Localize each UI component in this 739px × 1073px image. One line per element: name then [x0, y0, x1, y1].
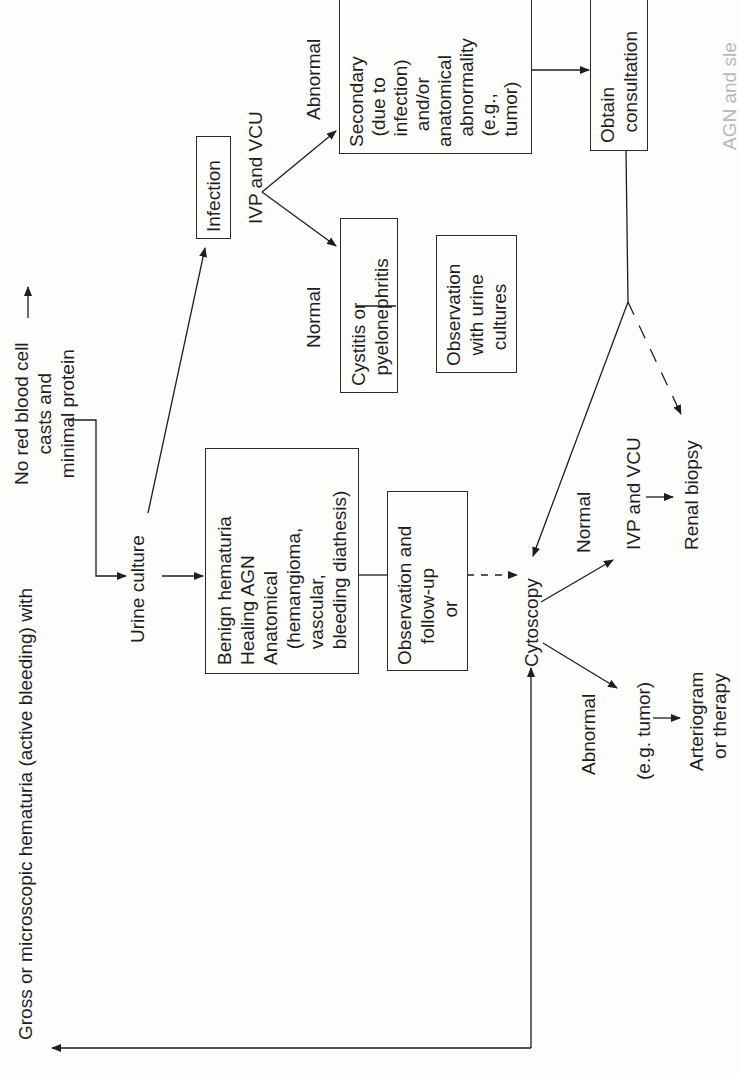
observation-urine-text: Observation with urine cultures [442, 264, 511, 366]
ivp-vcu-label-1: IVP and VCU [244, 111, 267, 224]
consultation-text: Obtain consultation [596, 31, 642, 143]
arteriogram-label: Arteriogram or therapy [685, 672, 731, 771]
start-label: Gross or microscopic hematuria (active b… [14, 588, 37, 1040]
normal-label-1: Normal [302, 287, 325, 348]
observation-followup-text: Observation and follow-up or [393, 526, 462, 665]
infection-text: Infection [202, 160, 225, 232]
no-rbc-casts-label: No red blood cell casts and minimal prot… [10, 342, 79, 485]
eg-tumor-label: (e.g. tumor) [632, 682, 655, 780]
caption-fragment: AGN and sle [718, 42, 739, 150]
urine-culture-label: Urine culture [126, 535, 149, 643]
cytoscopy-label: Cytoscopy [520, 578, 543, 667]
secondary-text: Secondary (due to infection) and/or anat… [346, 38, 522, 147]
renal-biopsy-label: Renal biopsy [680, 440, 703, 550]
abnormal-label-2: Abnormal [577, 694, 600, 775]
normal-label-2: Normal [572, 492, 595, 553]
benign-hematuria-text: Benign hematuria Healing AGN Anatomical … [213, 491, 351, 665]
ivp-vcu-label-2: IVP and VCU [622, 437, 645, 550]
cystitis-text: Cystitis or pyelonephritis [347, 258, 393, 386]
abnormal-label-1: Abnormal [302, 39, 325, 120]
